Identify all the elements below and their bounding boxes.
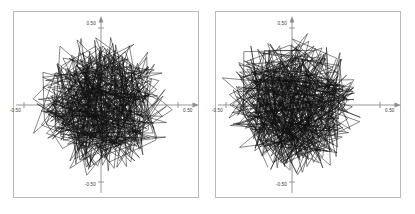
left-plot-panel: 0.50 -0.50 -0.50 0.50 bbox=[0, 0, 207, 214]
y-axis-arrow-icon bbox=[290, 16, 295, 23]
x-left-tick-label: -0.50 bbox=[212, 108, 224, 113]
trajectory-path bbox=[33, 37, 172, 175]
y-bottom-tick-label: -0.50 bbox=[276, 182, 288, 187]
x-right-tick-label: 0.50 bbox=[183, 108, 193, 113]
y-top-tick-label: 0.50 bbox=[86, 21, 96, 26]
right-plot-svg: 0.50 -0.50 -0.50 0.50 bbox=[208, 0, 415, 214]
y-axis-arrow-icon bbox=[99, 16, 104, 23]
x-right-tick-label: 0.50 bbox=[385, 108, 395, 113]
y-top-tick-label: 0.50 bbox=[277, 21, 287, 26]
x-left-tick-label: -0.50 bbox=[10, 108, 22, 113]
trajectory-path bbox=[222, 34, 360, 175]
figure-container: 0.50 -0.50 -0.50 0.50 0.50 -0.50 -0.50 bbox=[0, 0, 415, 214]
right-plot-panel: 0.50 -0.50 -0.50 0.50 bbox=[208, 0, 415, 214]
left-plot-svg: 0.50 -0.50 -0.50 0.50 bbox=[0, 0, 207, 214]
y-bottom-tick-label: -0.50 bbox=[85, 182, 97, 187]
